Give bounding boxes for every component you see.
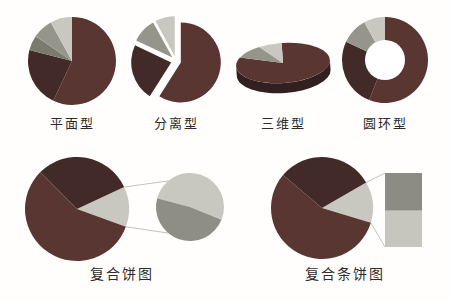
chart-label-flat: 平面型 <box>32 114 112 134</box>
chart-label-bar-of-pie: 复合条饼图 <box>275 265 415 285</box>
chart-label-3d: 三维型 <box>243 114 323 134</box>
chart-label-exploded: 分离型 <box>136 114 216 134</box>
chart-label-pie-of-pie: 复合饼图 <box>62 265 182 285</box>
pie-chart-3d <box>228 32 338 104</box>
pie-chart-donut <box>337 13 433 109</box>
pie-chart-exploded <box>124 10 228 114</box>
pie-of-pie-chart <box>22 149 232 269</box>
pie-chart-flat <box>22 11 122 111</box>
figure-canvas: 平面型 分离型 三维型 圆环型 复合饼图 复合条饼图 <box>0 0 452 301</box>
chart-label-donut: 圆环型 <box>345 114 425 134</box>
bar-of-pie-chart <box>260 149 438 269</box>
